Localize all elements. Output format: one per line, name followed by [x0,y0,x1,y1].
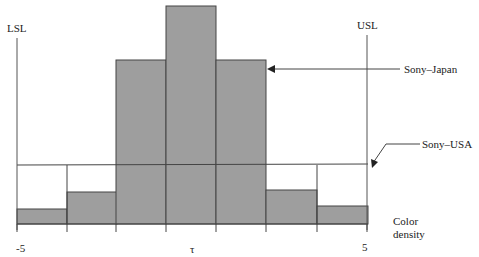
x-axis-label-line2: density [393,228,425,240]
bar-6 [266,190,317,224]
sony-japan-label: Sony–Japan [404,63,457,75]
bar-4 [166,6,216,224]
japan-arrow-head [267,65,275,73]
bar-3 [116,60,166,224]
bar-7 [317,206,368,224]
bar-5 [216,60,266,224]
tick-label-left: -5 [16,242,25,254]
japan-bars [17,6,368,224]
sony-usa-label: Sony–USA [422,138,472,150]
bar-2 [67,192,117,224]
usa-arrow-line [373,144,420,163]
tick-label-right: 5 [362,241,368,253]
tick-label-mid: τ [190,243,194,255]
usl-label: USL [357,19,378,31]
x-axis-label-line1: Color [393,215,418,227]
bar-1 [17,209,67,224]
lsl-label: LSL [7,22,27,34]
x-ticks [17,224,367,232]
